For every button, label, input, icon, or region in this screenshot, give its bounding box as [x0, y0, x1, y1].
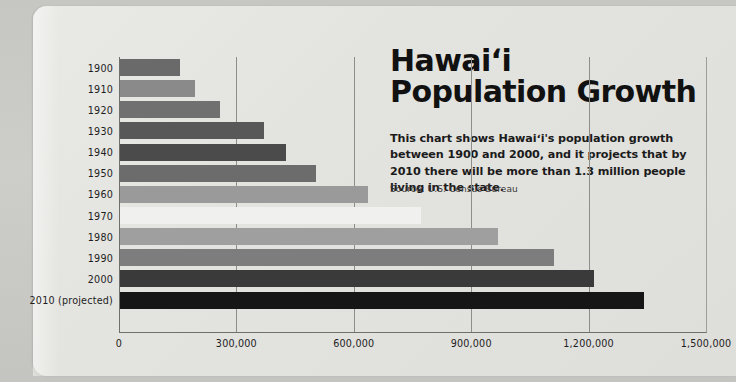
- bar: [120, 59, 180, 76]
- bar: [120, 144, 286, 161]
- bar: [120, 228, 498, 245]
- y-axis-tick-label: 1920: [88, 104, 113, 115]
- bar-row: [120, 57, 706, 78]
- y-axis-label-row: 1950: [0, 163, 113, 184]
- bar-series: [120, 57, 706, 332]
- y-axis-tick-label: 1970: [88, 210, 113, 221]
- bar-row: [120, 268, 706, 289]
- bar-row: [120, 163, 706, 184]
- bar: [120, 249, 554, 266]
- y-axis-tick-label: 1960: [88, 189, 113, 200]
- bar: [120, 122, 264, 139]
- bar-row: [120, 290, 706, 311]
- bar: [120, 101, 220, 118]
- x-axis-tick-label: 600,000: [333, 338, 374, 349]
- bar: [120, 165, 316, 182]
- y-axis-tick-label: 1940: [88, 147, 113, 158]
- bar-row: [120, 78, 706, 99]
- y-axis-tick-label: 1910: [88, 83, 113, 94]
- y-axis-label-row: 1970: [0, 205, 113, 226]
- y-axis-tick-label: 2000: [88, 273, 113, 284]
- bar-row: [120, 205, 706, 226]
- x-axis-tick-label: 900,000: [451, 338, 492, 349]
- y-axis-label-row: 1940: [0, 142, 113, 163]
- bar: [120, 270, 594, 287]
- bar: [120, 292, 644, 309]
- bar-row: [120, 184, 706, 205]
- y-axis-label-row: 1910: [0, 78, 113, 99]
- y-axis-label-row: 1930: [0, 120, 113, 141]
- y-axis-label-row: 1980: [0, 226, 113, 247]
- y-axis-tick-label: 1950: [88, 168, 113, 179]
- x-axis-tick-label: 1,500,000: [681, 338, 732, 349]
- bar-row: [120, 247, 706, 268]
- y-axis-label-row: 1960: [0, 184, 113, 205]
- x-axis-labels: 0300,000600,000900,0001,200,0001,500,000: [0, 338, 736, 354]
- y-axis-label-row: 2010 (projected): [0, 290, 113, 311]
- bar-row: [120, 99, 706, 120]
- y-axis-label-row: 1900: [0, 57, 113, 78]
- x-axis-tick-label: 1,200,000: [563, 338, 614, 349]
- y-axis-tick-label: 1980: [88, 231, 113, 242]
- chart-screenshot: Hawaiʻi Population Growth This chart sho…: [0, 0, 736, 382]
- y-axis-label-row: 1990: [0, 247, 113, 268]
- bar-row: [120, 142, 706, 163]
- y-axis-tick-label: 1930: [88, 125, 113, 136]
- bar: [120, 80, 195, 97]
- bar-row: [120, 120, 706, 141]
- x-axis-tick-label: 300,000: [216, 338, 257, 349]
- bar: [120, 186, 368, 203]
- y-axis-labels: 1900191019201930194019501960197019801990…: [0, 57, 113, 332]
- bar-row: [120, 226, 706, 247]
- y-axis-tick-label: 1990: [88, 252, 113, 263]
- y-axis-label-row: 2000: [0, 268, 113, 289]
- y-axis-tick-label: 1900: [88, 62, 113, 73]
- x-axis-tick-label: 0: [116, 338, 122, 349]
- y-axis-tick-label: 2010 (projected): [30, 295, 113, 306]
- y-axis-label-row: 1920: [0, 99, 113, 120]
- bar: [120, 207, 421, 224]
